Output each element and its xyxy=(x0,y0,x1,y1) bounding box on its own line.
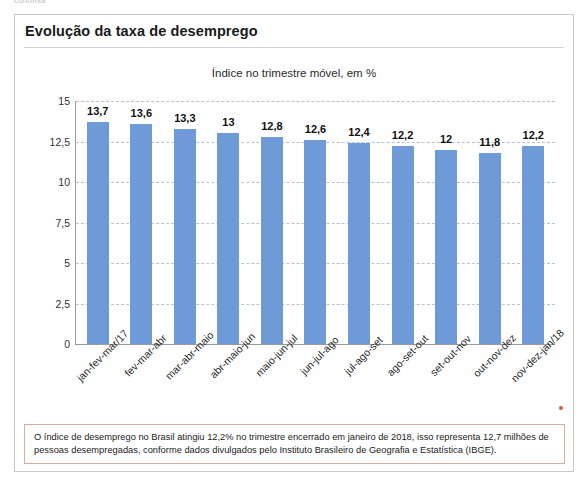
page-bottom-edge xyxy=(0,474,588,482)
page-root: conomia Paula Haydee Radi Evolução da ta… xyxy=(0,0,588,482)
bar-value-label: 12,6 xyxy=(305,123,326,135)
bar-slot: 13abr-maio-jun xyxy=(207,101,251,344)
bar-value-label: 12 xyxy=(440,133,452,145)
bar-slot: 13,6fev-mar-abr xyxy=(120,101,164,344)
bar[interactable] xyxy=(435,150,457,344)
bar[interactable] xyxy=(479,153,501,344)
figure-note: O índice de desemprego no Brasil atingiu… xyxy=(24,424,565,464)
bar[interactable] xyxy=(392,146,414,344)
bar-slot: 12,4jul-ago-set xyxy=(337,101,381,344)
chart-figure: Evolução da taxa de desemprego Índice no… xyxy=(14,14,574,472)
bar-slot: 12,6jun-jul-ago xyxy=(294,101,338,344)
bar-value-label: 13,6 xyxy=(131,107,152,119)
bar-slot: 12set-out-nov xyxy=(424,101,468,344)
bar[interactable] xyxy=(304,140,326,344)
y-axis-tick-label: 15 xyxy=(58,95,70,107)
y-axis-tick-label: 0 xyxy=(64,338,70,350)
bar-slot: 12,2ago-set-out xyxy=(381,101,425,344)
bar-value-label: 12,4 xyxy=(348,126,369,138)
bar-value-label: 12,8 xyxy=(261,120,282,132)
bar-value-label: 13,3 xyxy=(174,112,195,124)
bar-slot: 13,7jan-fev-mar/17 xyxy=(76,101,120,344)
bar[interactable] xyxy=(348,143,370,344)
page-top-text: conomia xyxy=(14,0,574,6)
bar-slot: 11,8out-nov-dez xyxy=(468,101,512,344)
bar-series: 13,7jan-fev-mar/1713,6fev-mar-abr13,3mar… xyxy=(76,101,555,344)
bar[interactable] xyxy=(522,146,544,344)
bar-slot: 13,3mar-abr-maio xyxy=(163,101,207,344)
y-axis-tick-label: 2,5 xyxy=(55,298,70,310)
y-axis-tick-label: 7,5 xyxy=(55,217,70,229)
bar-slot: 12,2nov-dez-jan/18 xyxy=(511,101,555,344)
bar[interactable] xyxy=(261,137,283,344)
bar[interactable] xyxy=(174,129,196,344)
bar[interactable] xyxy=(87,122,109,344)
y-axis-tick-label: 10 xyxy=(58,176,70,188)
y-axis-tick-label: 12,5 xyxy=(50,136,70,148)
bar[interactable] xyxy=(130,124,152,344)
bar[interactable] xyxy=(217,133,239,344)
decorative-dot xyxy=(559,406,563,410)
bar-value-label: 12,2 xyxy=(392,129,413,141)
plot-wrapper: 02,557,51012,515 13,7jan-fev-mar/1713,6f… xyxy=(15,15,575,473)
bar-value-label: 13 xyxy=(222,116,234,128)
bar-slot: 12,8maio-jun-jul xyxy=(250,101,294,344)
bar-value-label: 12,2 xyxy=(523,129,544,141)
y-axis-tick-label: 5 xyxy=(64,257,70,269)
bar-value-label: 11,8 xyxy=(479,136,500,148)
plot-area: 02,557,51012,515 13,7jan-fev-mar/1713,6f… xyxy=(75,101,555,345)
bar-value-label: 13,7 xyxy=(87,105,108,117)
